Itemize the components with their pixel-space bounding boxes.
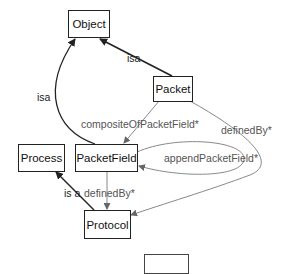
node-unnamed[interactable] <box>144 254 189 274</box>
edge-label-packet-definedby-protocol: definedBy* <box>221 125 272 136</box>
node-protocol-label: Protocol <box>86 219 128 231</box>
node-packet[interactable]: Packet <box>153 76 193 102</box>
edge-label-protocol-isa-process: is a <box>64 188 80 199</box>
edge-label-packet-isa-object: isa <box>127 53 140 64</box>
node-object[interactable]: Object <box>68 10 110 38</box>
node-packet-label: Packet <box>155 83 190 95</box>
node-process[interactable]: Process <box>18 144 65 172</box>
edge-label-packetfield-isa-object: isa <box>37 92 50 103</box>
node-protocol[interactable]: Protocol <box>84 210 131 239</box>
edge-label-packetfield-append-self: appendPacketField* <box>164 153 258 164</box>
edge-label-packetfield-definedby-protocol: definedBy* <box>84 188 135 199</box>
edge-label-packet-composite-packetfield: compositeOfPacketField* <box>81 119 199 130</box>
node-packetfield-label: PacketField <box>76 152 136 164</box>
node-packetfield[interactable]: PacketField <box>75 144 138 172</box>
node-object-label: Object <box>72 18 105 30</box>
node-process-label: Process <box>21 152 63 164</box>
